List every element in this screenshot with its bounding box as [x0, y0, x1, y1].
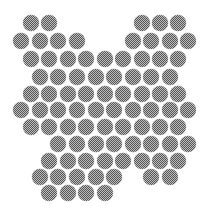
circle-dot	[60, 86, 76, 102]
circle-dot	[78, 153, 94, 169]
circle-dot	[125, 69, 141, 85]
circle-dot	[78, 185, 94, 201]
circle-dot	[152, 119, 168, 135]
circle-dot	[32, 69, 48, 85]
circle-dot	[152, 15, 168, 31]
circle-dot	[78, 86, 94, 102]
circle-dot	[97, 51, 113, 67]
circle-dot	[97, 86, 113, 102]
circle-dot	[106, 136, 122, 152]
circle-dot	[41, 119, 57, 135]
circle-dot	[143, 169, 159, 185]
circle-dot	[88, 102, 104, 118]
circle-dot	[69, 69, 85, 85]
circle-dot	[115, 86, 131, 102]
circle-dot	[23, 15, 39, 31]
circle-dot	[41, 86, 57, 102]
circle-dot	[115, 119, 131, 135]
circle-dot	[143, 33, 159, 49]
circle-dot	[13, 102, 29, 118]
circle-dot	[170, 153, 186, 169]
circle-dot	[162, 33, 178, 49]
circle-dot	[106, 169, 122, 185]
circle-dot	[134, 15, 150, 31]
circle-dot	[23, 51, 39, 67]
circle-dot	[41, 51, 57, 67]
circle-dot	[41, 153, 57, 169]
circle-dot	[180, 136, 196, 152]
dot-pattern-canvas	[0, 0, 208, 213]
circle-dot	[32, 102, 48, 118]
circle-dot	[50, 136, 66, 152]
circle-dot	[78, 51, 94, 67]
circle-dot	[115, 51, 131, 67]
circle-dot	[143, 69, 159, 85]
circle-dot	[170, 51, 186, 67]
circle-dot	[88, 69, 104, 85]
circle-dot	[180, 33, 196, 49]
circle-dot	[60, 153, 76, 169]
circle-dot	[69, 102, 85, 118]
circle-dot	[134, 51, 150, 67]
circle-dot	[162, 169, 178, 185]
circle-dot	[170, 86, 186, 102]
circle-dot	[134, 86, 150, 102]
circle-dot	[23, 119, 39, 135]
circle-dot	[162, 102, 178, 118]
circle-dot	[152, 86, 168, 102]
circle-dot	[125, 136, 141, 152]
circle-dot	[60, 51, 76, 67]
circle-dot	[88, 169, 104, 185]
circle-dot	[60, 119, 76, 135]
circle-dot	[78, 119, 94, 135]
circle-dot	[125, 102, 141, 118]
circle-dot	[125, 33, 141, 49]
circle-dot	[162, 69, 178, 85]
circle-dot	[69, 33, 85, 49]
circle-dot	[180, 102, 196, 118]
circle-dot	[69, 169, 85, 185]
circle-dot	[23, 86, 39, 102]
circle-dot	[50, 102, 66, 118]
circle-dot	[106, 102, 122, 118]
circle-dot	[50, 69, 66, 85]
circle-dot	[41, 15, 57, 31]
circle-dot	[97, 119, 113, 135]
circle-dot	[134, 119, 150, 135]
circle-dot	[152, 153, 168, 169]
circle-dot	[152, 51, 168, 67]
circle-dot	[50, 169, 66, 185]
circle-dot	[106, 69, 122, 85]
circle-dot	[97, 153, 113, 169]
circle-dot	[170, 119, 186, 135]
circle-dot	[32, 33, 48, 49]
circle-dot	[143, 102, 159, 118]
circle-dot	[41, 185, 57, 201]
circle-dot	[134, 153, 150, 169]
circle-dot	[50, 33, 66, 49]
circle-dot	[13, 33, 29, 49]
circle-dot	[32, 169, 48, 185]
circle-dot	[170, 15, 186, 31]
circle-dot	[60, 185, 76, 201]
circle-dot	[97, 185, 113, 201]
circle-dot	[162, 136, 178, 152]
circle-dot	[115, 153, 131, 169]
circle-dot	[143, 136, 159, 152]
circle-dot	[69, 136, 85, 152]
circle-dot	[88, 136, 104, 152]
